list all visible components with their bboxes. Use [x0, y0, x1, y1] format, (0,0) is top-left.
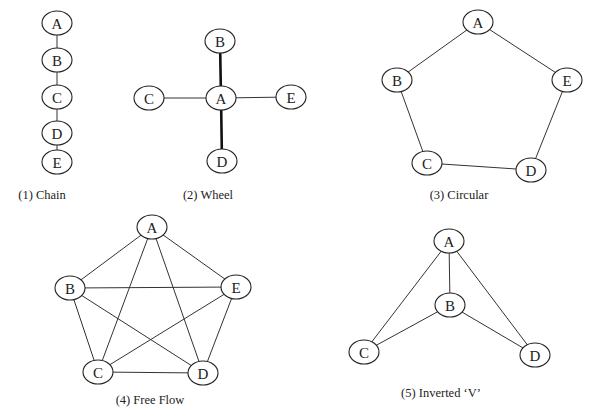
node-label: C — [93, 365, 103, 381]
node-label: A — [473, 15, 484, 31]
diagram-wheel: BCAED(2) Wheel — [134, 29, 306, 202]
node-B: B — [42, 48, 72, 72]
edge-A-B — [397, 22, 478, 80]
node-B: B — [382, 68, 412, 92]
node-label: B — [52, 53, 62, 69]
node-label: D — [530, 348, 541, 364]
node-label: E — [231, 280, 240, 296]
node-E: E — [276, 85, 306, 109]
edge-A-C — [98, 227, 152, 372]
edge-A-C — [364, 241, 449, 352]
node-label: C — [52, 90, 62, 106]
node-label: D — [198, 366, 209, 382]
node-label: C — [359, 345, 369, 361]
diagram-caption: (1) Chain — [18, 188, 66, 202]
node-label: C — [422, 156, 432, 172]
diagram-circular: ABECD(3) Circular — [382, 10, 582, 202]
node-D: D — [207, 149, 237, 173]
node-B: B — [205, 29, 235, 53]
node-D: D — [42, 121, 72, 145]
edge-C-D — [427, 163, 531, 170]
edge-B-C — [70, 288, 98, 372]
node-E: E — [221, 275, 251, 299]
node-label: B — [65, 281, 75, 297]
node-label: D — [217, 154, 228, 170]
node-label: D — [526, 163, 537, 179]
node-label: A — [147, 220, 158, 236]
diagram-inverted-v: ABCD(5) Inverted ‘V’ — [349, 229, 550, 400]
edge-B-C — [397, 80, 427, 163]
node-B: B — [435, 293, 465, 317]
node-label: A — [52, 16, 63, 32]
edge-D-E — [531, 80, 567, 170]
node-label: A — [444, 234, 455, 250]
node-label: C — [144, 91, 154, 107]
node-label: E — [286, 90, 295, 106]
diagram-caption: (2) Wheel — [183, 188, 234, 202]
node-label: E — [562, 73, 571, 89]
edge-A-D — [152, 227, 203, 373]
edge-A-E — [152, 227, 236, 287]
node-C: C — [83, 360, 113, 384]
node-label: B — [215, 34, 225, 50]
node-E: E — [42, 150, 72, 174]
node-A: A — [463, 10, 493, 34]
diagram-caption: (3) Circular — [430, 188, 489, 202]
node-C: C — [412, 151, 442, 175]
edge-A-E — [478, 22, 567, 80]
node-A: A — [434, 229, 464, 253]
diagram-caption: (5) Inverted ‘V’ — [401, 386, 481, 400]
node-D: D — [520, 343, 550, 367]
diagram-chain: ABCDE(1) Chain — [18, 11, 72, 202]
node-label: E — [52, 155, 61, 171]
node-label: A — [216, 91, 227, 107]
node-D: D — [188, 361, 218, 385]
node-B: B — [55, 276, 85, 300]
node-A: A — [137, 215, 167, 239]
edge-A-B — [70, 227, 152, 288]
node-label: D — [52, 126, 63, 142]
node-C: C — [134, 86, 164, 110]
node-E: E — [552, 68, 582, 92]
communication-networks-diagram: ABCDE(1) ChainBCAED(2) WheelABECD(3) Cir… — [0, 0, 598, 420]
node-D: D — [516, 158, 546, 182]
edge-C-E — [98, 287, 236, 372]
node-C: C — [42, 85, 72, 109]
edge-B-D — [70, 288, 203, 373]
diagram-free-flow: ABECD(4) Free Flow — [55, 215, 251, 407]
edge-C-D — [98, 372, 203, 373]
diagram-caption: (4) Free Flow — [116, 393, 185, 407]
node-C: C — [349, 340, 379, 364]
edge-B-D — [450, 305, 535, 355]
edge-B-E — [70, 287, 236, 288]
node-label: B — [445, 298, 455, 314]
node-A: A — [206, 86, 236, 110]
edge-D-E — [203, 287, 236, 373]
node-label: B — [392, 73, 402, 89]
node-A: A — [42, 11, 72, 35]
